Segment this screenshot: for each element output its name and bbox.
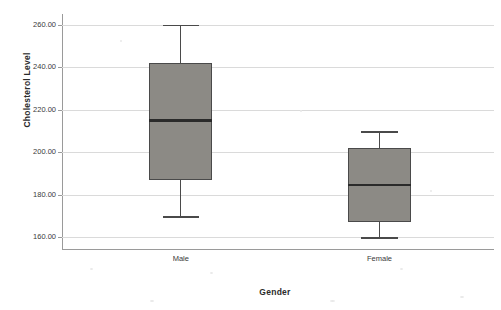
scan-artifact xyxy=(90,268,93,270)
tick-mark xyxy=(58,195,62,196)
x-tick-label-male: Male xyxy=(101,254,261,263)
y-tick-label: 180.00 xyxy=(10,190,56,199)
lower-whisker-cap xyxy=(361,237,398,239)
boxplot-female[interactable] xyxy=(348,14,411,248)
median-line xyxy=(149,119,212,122)
upper-whisker-cap xyxy=(163,25,200,27)
tick-mark xyxy=(58,152,62,153)
tick-mark xyxy=(58,67,62,68)
median-line xyxy=(348,184,411,187)
gridline xyxy=(62,237,494,238)
gridline xyxy=(62,25,494,26)
x-axis-title: Gender xyxy=(55,287,495,297)
lower-whisker-line xyxy=(180,180,181,216)
scan-artifact xyxy=(330,300,335,302)
tick-mark xyxy=(58,25,62,26)
boxplot-male[interactable] xyxy=(149,14,212,248)
scan-artifact xyxy=(400,268,403,270)
upper-whisker-line xyxy=(180,25,181,63)
y-tick-label: 160.00 xyxy=(10,232,56,241)
tick-mark xyxy=(58,110,62,111)
y-tick-label: 200.00 xyxy=(10,147,56,156)
tick-mark xyxy=(58,237,62,238)
boxplot-chart: Cholesterol Level 160.00180.00200.00220.… xyxy=(0,0,501,310)
upper-whisker-cap xyxy=(361,131,398,133)
gridline xyxy=(62,110,494,111)
gridline xyxy=(62,195,494,196)
x-tick-label-female: Female xyxy=(300,254,460,263)
gridline xyxy=(62,67,494,68)
y-tick-label: 260.00 xyxy=(10,20,56,29)
y-tick-label: 240.00 xyxy=(10,62,56,71)
upper-whisker-line xyxy=(379,131,380,148)
lower-whisker-line xyxy=(379,222,380,237)
y-tick-label: 220.00 xyxy=(10,105,56,114)
x-axis-line xyxy=(62,249,494,250)
gridline xyxy=(62,152,494,153)
plot-area: 160.00180.00200.00220.00240.00260.00 xyxy=(62,14,494,248)
scan-artifact xyxy=(210,272,213,274)
scan-artifact xyxy=(150,300,154,302)
lower-whisker-cap xyxy=(163,216,200,218)
